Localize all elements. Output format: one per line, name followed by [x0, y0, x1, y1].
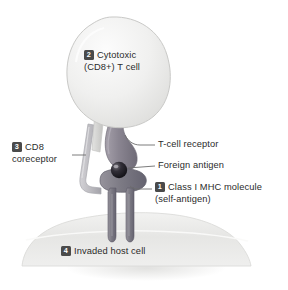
label-mhc-line2: (self-antigen) — [155, 194, 262, 206]
badge-3: 3 — [12, 142, 22, 152]
mhc-leg-right — [126, 188, 134, 242]
label-cd8-coreceptor-line1: CD8 — [25, 142, 44, 152]
label-invaded-host-cell: 4Invaded host cell — [61, 246, 145, 258]
foreign-antigen — [111, 162, 127, 178]
label-foreign-antigen: Foreign antigen — [158, 160, 224, 172]
invaded-host-cell — [22, 213, 251, 266]
badge-4: 4 — [61, 246, 71, 256]
label-cytotoxic-t-cell-line1: Cytotoxic — [97, 50, 136, 60]
label-cytotoxic-t-cell: 2Cytotoxic (CD8+) T cell — [84, 50, 140, 73]
badge-1: 1 — [155, 182, 165, 192]
badge-2: 2 — [84, 50, 94, 60]
foreign-antigen-highlight — [114, 165, 119, 169]
label-t-cell-receptor: T-cell receptor — [158, 139, 218, 151]
label-invaded-host-cell-line1: Invaded host cell — [74, 246, 145, 256]
immunology-diagram: 2Cytotoxic (CD8+) T cell 3CD8 coreceptor… — [0, 0, 288, 290]
label-class-i-mhc-molecule: 1Class I MHC molecule (self-antigen) — [155, 182, 262, 205]
label-mhc-line1: Class I MHC molecule — [168, 182, 262, 192]
label-cd8-coreceptor: 3CD8 coreceptor — [12, 142, 57, 165]
label-cd8-coreceptor-line2: coreceptor — [12, 154, 57, 166]
label-cytotoxic-t-cell-line2: (CD8+) T cell — [84, 62, 140, 74]
